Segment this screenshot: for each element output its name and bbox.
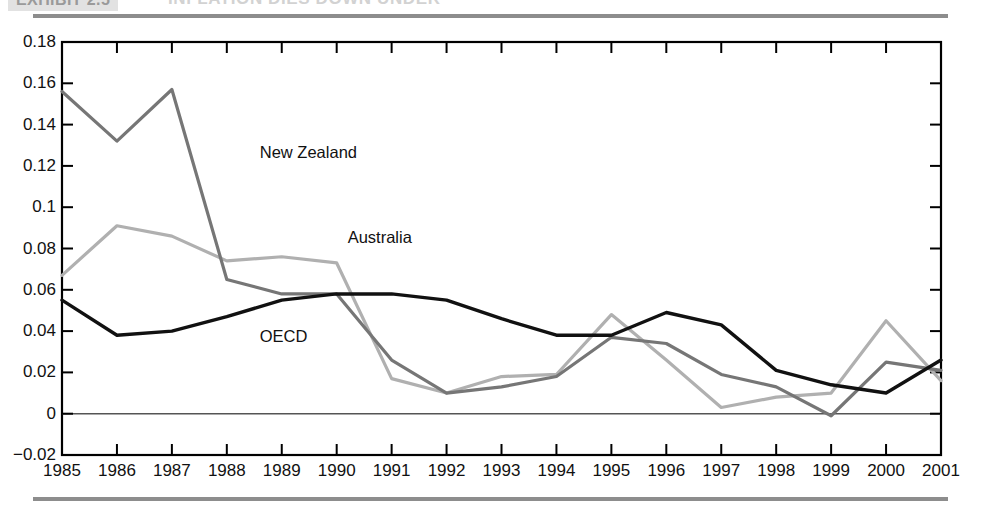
- series-line-new-zealand: [62, 90, 941, 416]
- plot-frame: [62, 42, 941, 455]
- series-label-oecd: OECD: [260, 327, 308, 346]
- series-label-new-zealand: New Zealand: [260, 143, 357, 162]
- series-label-australia: Australia: [348, 228, 412, 247]
- line-chart: Inflation (change in Consumer Price Inde…: [0, 0, 981, 513]
- exhibit-figure: EXHIBIT 2.5 INFLATION DIES DOWN UNDER In…: [0, 0, 981, 513]
- plot-canvas: [0, 0, 981, 513]
